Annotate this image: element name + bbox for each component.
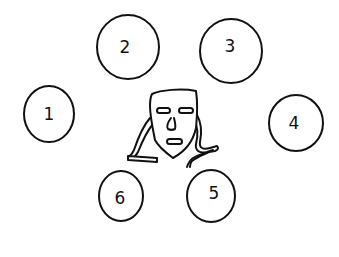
circle-4: 4 <box>269 95 323 151</box>
circle-2-label: 2 <box>120 37 131 57</box>
circle-1-label: 1 <box>44 104 55 124</box>
face-outline <box>150 90 197 158</box>
circle-2: 2 <box>97 15 159 79</box>
circle-3-label: 3 <box>225 36 236 56</box>
diagram-canvas: 1 2 3 4 5 6 <box>0 0 339 257</box>
circle-3: 3 <box>200 19 262 83</box>
circle-5-label: 5 <box>209 183 220 203</box>
circle-5: 5 <box>187 170 235 222</box>
circle-6: 6 <box>99 171 143 221</box>
mask-face-icon <box>128 90 218 167</box>
circle-6-label: 6 <box>115 188 126 208</box>
circle-1: 1 <box>24 86 74 142</box>
circle-4-label: 4 <box>289 113 300 133</box>
